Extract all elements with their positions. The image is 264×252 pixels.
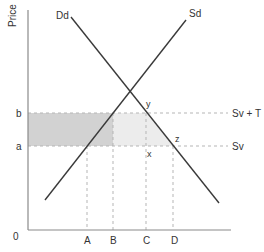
point-x-label: x <box>147 149 152 159</box>
origin-label: 0 <box>13 231 19 242</box>
light-shaded-area <box>113 113 173 146</box>
demand-curve-label: Dd <box>56 10 69 21</box>
quantity-B-label: B <box>110 235 117 246</box>
price-b-label: b <box>16 108 22 119</box>
point-z-label: z <box>175 134 180 144</box>
supply-curve-label: Sd <box>189 8 201 19</box>
quantity-A-label: A <box>84 235 91 246</box>
supply-curve <box>45 20 186 200</box>
y-axis-label: Price <box>7 4 18 27</box>
tariff-supply-demand-diagram: Price 0 Dd Sd b a Sv + T Sv y z x A B C … <box>0 0 264 252</box>
demand-curve <box>71 17 219 203</box>
point-y-label: y <box>146 99 151 109</box>
sv-plus-t-label: Sv + T <box>232 108 261 119</box>
quantity-C-label: C <box>143 235 150 246</box>
quantity-D-label: D <box>171 235 178 246</box>
sv-label: Sv <box>232 141 244 152</box>
price-a-label: a <box>16 141 22 152</box>
